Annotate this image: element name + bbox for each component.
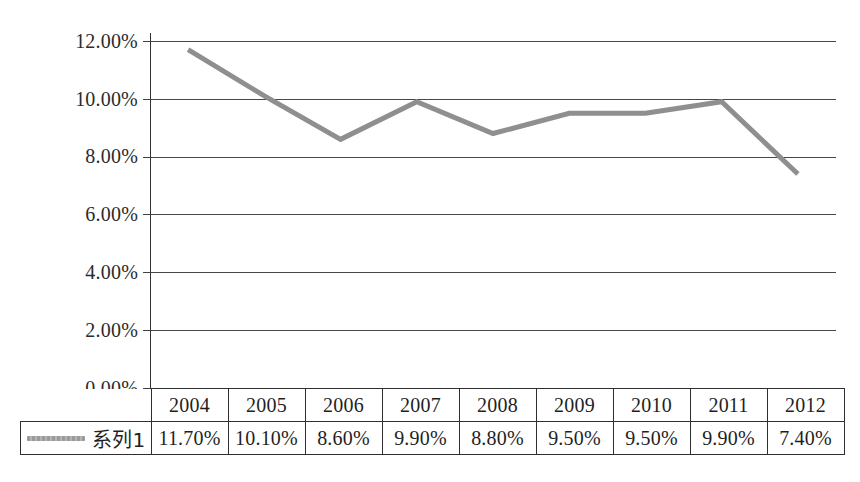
y-axis-tick-label: 10.00%: [75, 89, 138, 109]
value-cell: 8.80%: [459, 422, 536, 455]
y-axis-tick-label: 2.00%: [85, 320, 138, 340]
category-cell: 2012: [767, 389, 844, 422]
y-axis-tick-label: 12.00%: [75, 31, 138, 51]
category-cell: 2005: [228, 389, 305, 422]
y-axis-labels: 12.00% 10.00% 8.00% 6.00% 4.00% 2.00% 0.…: [0, 0, 144, 400]
y-axis-tick-label: 8.00%: [85, 146, 138, 166]
category-cell: 2004: [151, 389, 228, 422]
chart-page: 12.00% 10.00% 8.00% 6.00% 4.00% 2.00% 0.…: [0, 0, 860, 482]
value-cell: 9.90%: [382, 422, 459, 455]
legend-line-swatch-icon: [27, 436, 85, 441]
series-polyline: [188, 50, 798, 174]
value-cell: 7.40%: [767, 422, 844, 455]
value-cell: 9.90%: [690, 422, 767, 455]
category-cell: 2007: [382, 389, 459, 422]
category-cell: 2006: [305, 389, 382, 422]
value-cell: 10.10%: [228, 422, 305, 455]
table-row-categories: 2004 2005 2006 2007 2008 2009 2010 2011 …: [21, 389, 845, 422]
category-cell: 2009: [536, 389, 613, 422]
legend-spacer-cell: [21, 389, 152, 422]
value-cell: 8.60%: [305, 422, 382, 455]
y-axis-tick-label: 6.00%: [85, 204, 138, 224]
legend-series-label: 系列1: [92, 424, 145, 453]
chart-plot-area: 12.00% 10.00% 8.00% 6.00% 4.00% 2.00% 0.…: [0, 0, 860, 400]
chart-data-table: 2004 2005 2006 2007 2008 2009 2010 2011 …: [20, 388, 840, 455]
table-row-values: 系列1 11.70% 10.10% 8.60% 9.90% 8.80% 9.50…: [21, 422, 845, 455]
category-cell: 2011: [690, 389, 767, 422]
legend-cell: 系列1: [21, 422, 152, 455]
series-line-chart: [150, 0, 836, 400]
value-cell: 9.50%: [613, 422, 690, 455]
y-axis-tick-label: 4.00%: [85, 262, 138, 282]
category-cell: 2008: [459, 389, 536, 422]
value-cell: 11.70%: [151, 422, 228, 455]
category-cell: 2010: [613, 389, 690, 422]
value-cell: 9.50%: [536, 422, 613, 455]
